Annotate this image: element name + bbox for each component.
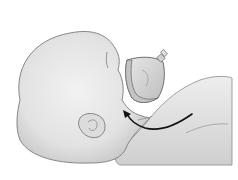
infant-mask-illustration	[0, 0, 238, 180]
face-mask	[126, 49, 168, 102]
illustration: Infant lying supine with face mask over …	[0, 0, 238, 180]
